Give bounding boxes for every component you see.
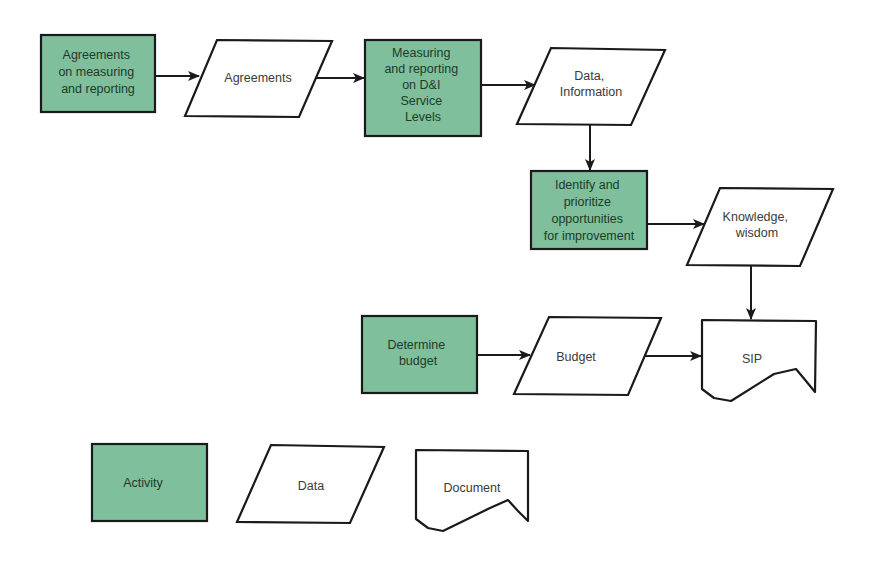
node-measuring-reporting[interactable]: Measuring and reporting on D&I Service L… — [365, 40, 481, 136]
node-label: Budget — [556, 350, 596, 364]
node-agreements-data[interactable]: Agreements — [185, 40, 332, 117]
flowchart-canvas: Agreements on measuring and reporting Ag… — [0, 0, 876, 566]
node-sip-document[interactable]: SIP — [702, 320, 816, 401]
node-data-information[interactable]: Data, Information — [517, 48, 665, 125]
node-knowledge-wisdom[interactable]: Knowledge, wisdom — [687, 188, 833, 266]
legend-label: Activity — [123, 476, 163, 490]
legend-item-activity: Activity — [92, 444, 207, 521]
legend: Activity Data Document — [92, 444, 528, 531]
node-budget[interactable]: Budget — [514, 317, 661, 395]
node-identify-prioritize[interactable]: Identify and prioritize opportunities fo… — [531, 171, 647, 249]
legend-item-data: Data — [237, 445, 384, 523]
node-label: Agreements — [224, 71, 291, 85]
node-label: SIP — [742, 352, 762, 366]
node-label: Agreements on measuring and reporting — [58, 48, 137, 96]
legend-item-document: Document — [416, 450, 528, 531]
legend-label: Document — [444, 481, 501, 495]
node-agreements-on-measuring[interactable]: Agreements on measuring and reporting — [41, 35, 155, 112]
node-determine-budget[interactable]: Determine budget — [362, 316, 477, 393]
legend-label: Data — [298, 479, 324, 493]
